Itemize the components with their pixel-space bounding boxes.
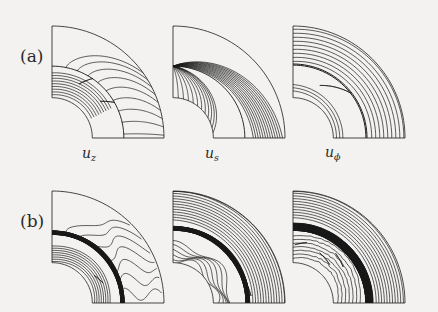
column-label-us-sub: s [214,152,219,163]
column-label-us: us [205,145,219,163]
column-label-uphi: uϕ [325,144,341,162]
column-label-uphi-base: u [325,144,334,160]
column-label-uz-sub: z [91,152,96,163]
column-label-uphi-sub: ϕ [334,151,340,162]
contour-figure [0,0,438,312]
row-label-b: (b) [20,211,44,231]
column-label-uz: uz [82,145,96,163]
column-label-us-base: u [205,145,214,161]
row-label-a: (a) [20,46,43,66]
column-label-uz-base: u [82,145,91,161]
